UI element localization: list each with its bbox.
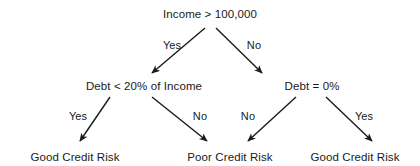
decision-tree-diagram: Income > 100,000Debt < 20% of IncomeDebt…: [0, 0, 420, 166]
tree-node-debt20: Debt < 20% of Income: [86, 80, 202, 92]
tree-node-leaf_right: Good Credit Risk: [310, 151, 399, 163]
edge-layer: [0, 0, 420, 166]
tree-node-debt0: Debt = 0%: [285, 80, 340, 92]
edge-label-e6: Yes: [355, 110, 373, 122]
edge-label-e5: No: [241, 110, 255, 122]
edge-label-e1: Yes: [163, 39, 181, 51]
tree-node-root: Income > 100,000: [163, 8, 257, 20]
edge-label-e3: Yes: [69, 110, 87, 122]
tree-edge-debt0-to-leaf_mid: [248, 97, 296, 141]
edge-label-e2: No: [247, 39, 261, 51]
edge-label-e4: No: [193, 110, 207, 122]
tree-node-leaf_mid: Poor Credit Risk: [187, 151, 272, 163]
tree-node-leaf_left: Good Credit Risk: [30, 151, 119, 163]
